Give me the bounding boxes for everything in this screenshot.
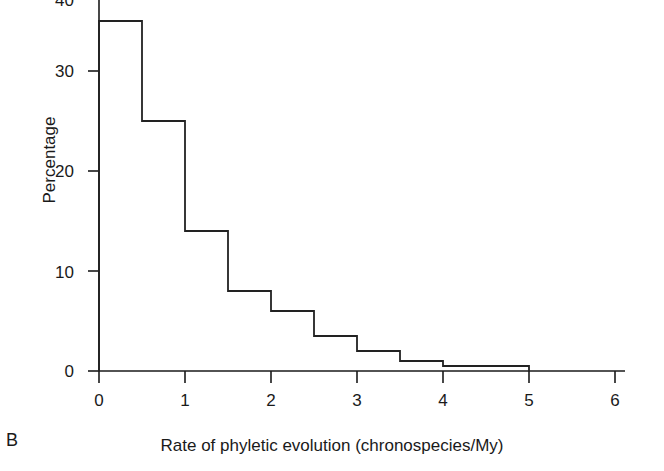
histogram-step-outline — [99, 21, 529, 371]
histogram-plot — [0, 0, 664, 471]
x-axis-ticks — [99, 371, 615, 383]
y-axis-ticks — [88, 71, 99, 371]
figure-panel-b: Percentage Rate of phyletic evolution (c… — [0, 0, 664, 471]
